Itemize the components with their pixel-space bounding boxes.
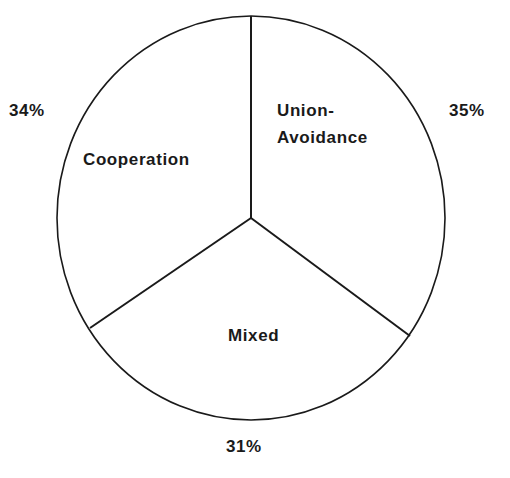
label-union-avoidance-2: Avoidance xyxy=(277,127,368,149)
label-mixed: Mixed xyxy=(228,325,279,347)
pie-chart xyxy=(0,0,510,478)
pct-cooperation: 34% xyxy=(9,100,45,122)
label-cooperation: Cooperation xyxy=(83,149,190,171)
label-union-avoidance-1: Union- xyxy=(277,100,334,122)
pct-union-avoidance: 35% xyxy=(449,100,485,122)
pct-mixed: 31% xyxy=(226,436,262,458)
